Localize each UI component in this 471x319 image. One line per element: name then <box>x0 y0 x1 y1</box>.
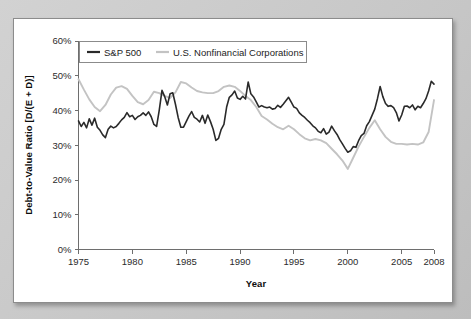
legend-label-us-nonfinancial: U.S. Nonfinancial Corporations <box>173 47 304 58</box>
y-axis-title: Debt-to-Value Ratio [D/(E + D)] <box>23 75 34 215</box>
y-tick-label: 60% <box>52 35 72 46</box>
chart-axes <box>79 41 435 250</box>
y-axis-ticks: 0%10%20%30%40%50%60% <box>52 35 78 255</box>
x-tick-label: 1980 <box>122 256 143 267</box>
x-tick-label: 1995 <box>283 256 304 267</box>
x-tick-label: 2005 <box>391 256 412 267</box>
chart-series-group <box>79 79 435 169</box>
x-tick-label: 1975 <box>68 256 89 267</box>
figure-card: 0%10%20%30%40%50%60% 1975198019851990199… <box>13 18 453 303</box>
x-axis-title: Year <box>246 278 267 289</box>
y-tick-label: 30% <box>52 140 72 151</box>
x-axis-ticks: 19751980198519901995200020052008 <box>68 250 445 267</box>
y-tick-label: 10% <box>52 209 72 220</box>
debt-to-value-ratio-line-chart: 0%10%20%30%40%50%60% 1975198019851990199… <box>14 19 453 303</box>
series-line-u-s-nonfinancial-corporations <box>79 79 435 169</box>
series-line-s-p-500 <box>79 81 435 152</box>
x-tick-label: 2008 <box>423 256 444 267</box>
y-tick-label: 0% <box>58 244 72 255</box>
chart-legend[interactable]: S&P 500 U.S. Nonfinancial Corporations <box>80 42 307 63</box>
legend-label-sp500: S&P 500 <box>104 47 141 58</box>
y-tick-label: 20% <box>52 174 72 185</box>
y-tick-label: 40% <box>52 105 72 116</box>
x-tick-label: 1985 <box>176 256 197 267</box>
y-tick-label: 50% <box>52 70 72 81</box>
x-tick-label: 1990 <box>230 256 251 267</box>
x-tick-label: 2000 <box>337 256 358 267</box>
